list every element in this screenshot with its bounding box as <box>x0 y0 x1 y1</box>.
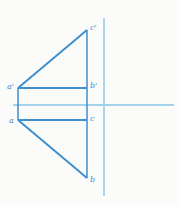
label-c-front: c' <box>90 24 97 32</box>
top-view-edge-a-b <box>18 120 87 178</box>
label-a-front: a' <box>7 83 14 91</box>
label-c-top: c <box>90 115 94 123</box>
label-b-top: b <box>90 176 95 184</box>
geometry-figure: c' a' b' a c b <box>0 0 180 207</box>
label-a-top: a <box>9 117 14 125</box>
label-b-front: b' <box>90 82 97 90</box>
front-view-edge-a-c <box>18 30 87 88</box>
